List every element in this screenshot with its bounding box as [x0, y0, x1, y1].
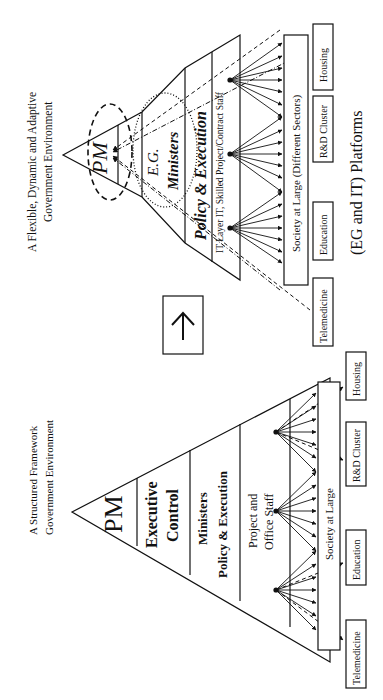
flexible-title-line2: Government Environment: [42, 101, 54, 222]
diagram-canvas: A Structured Framework Government Enviro…: [0, 0, 383, 700]
up-arrow-icon: [163, 296, 203, 354]
society-label: Society at Large: [323, 488, 335, 560]
flex-sector-boxes: Telemedicine Education R&D Cluster Housi…: [313, 24, 333, 346]
flex-level-eg: E.G.: [145, 149, 161, 178]
sector-housing: Housing: [351, 362, 362, 396]
level-ministers-1: Ministers: [195, 492, 210, 545]
sector-education: Education: [351, 539, 362, 580]
level-exec-1: Executive: [143, 481, 160, 548]
flex-society-label: Society at Large (Different Sectors): [290, 94, 303, 252]
level-ministers-2: Policy & Execution: [215, 470, 230, 578]
flex-level-ministers: Ministers: [165, 131, 181, 191]
sector-rd-cluster: R&D Cluster: [351, 428, 362, 482]
level-staff-2: Office Staff: [262, 493, 276, 550]
level-exec-2: Control: [164, 488, 181, 542]
flex-sector-rd-cluster: R&D Cluster: [318, 104, 329, 158]
sector-boxes: Telemedicine Education R&D Cluster Housi…: [346, 352, 366, 688]
flex-caption: (EG and IT) Platforms: [348, 111, 366, 255]
structured-title-line2: Government Environment: [43, 420, 55, 535]
flex-level-pm: PM: [87, 141, 112, 175]
flexible-title-line1: A Flexible, Dynamic and Adaptive: [26, 92, 39, 252]
structured-framework: A Structured Framework Government Enviro…: [27, 352, 366, 688]
level-staff-1: Project and: [246, 494, 260, 548]
flex-level-it: IT Layer IT, Skilled Project/Contract St…: [215, 91, 225, 253]
flex-sector-housing: Housing: [318, 48, 329, 82]
structured-title-line1: A Structured Framework: [27, 425, 39, 535]
flex-sector-education: Education: [318, 214, 329, 255]
flex-level-policy: Policy & Execution: [192, 111, 210, 241]
flex-sector-telemedicine: Telemedicine: [318, 289, 329, 343]
level-pm: PM: [99, 495, 128, 533]
sector-telemedicine: Telemedicine: [351, 631, 362, 685]
